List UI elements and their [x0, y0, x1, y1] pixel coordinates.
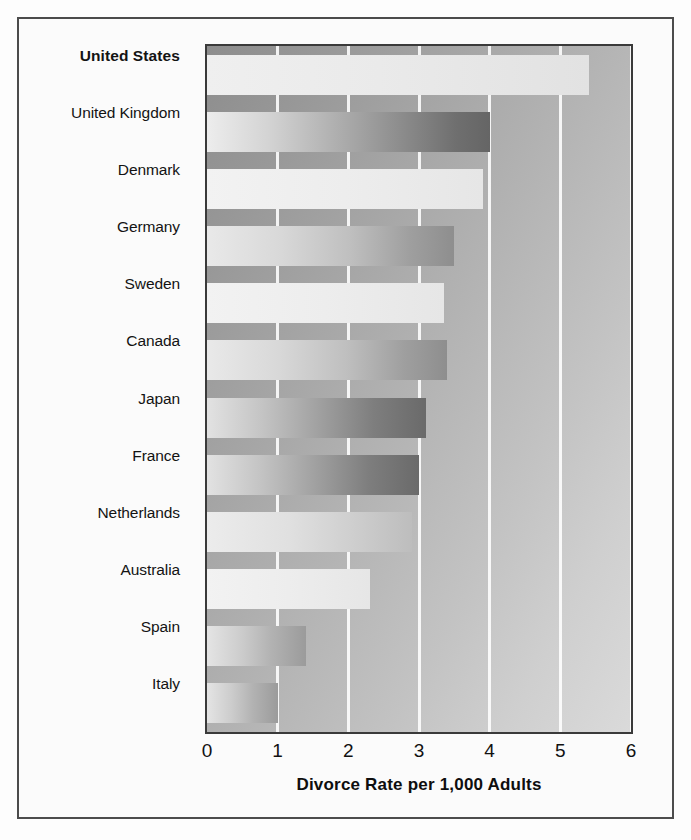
category-label-denmark: Denmark	[0, 161, 180, 179]
category-label-germany: Germany	[0, 218, 180, 236]
bar-netherlands	[207, 512, 412, 552]
x-tick-2: 2	[328, 740, 368, 762]
category-label-netherlands: Netherlands	[0, 504, 180, 522]
x-tick-6: 6	[611, 740, 651, 762]
category-label-column: United StatesUnited KingdomDenmarkGerman…	[0, 27, 188, 737]
x-tick-1: 1	[258, 740, 298, 762]
bar-germany	[207, 226, 454, 266]
x-tick-5: 5	[540, 740, 580, 762]
x-axis-tick-labels: 0123456	[205, 740, 633, 766]
bar-united-states	[207, 55, 589, 95]
category-label-spain: Spain	[0, 618, 180, 636]
category-label-sweden: Sweden	[0, 275, 180, 293]
plot-area	[205, 44, 633, 734]
bar-denmark	[207, 169, 483, 209]
bar-japan	[207, 398, 426, 438]
gridline-5	[559, 46, 562, 732]
bar-canada	[207, 340, 447, 380]
x-tick-4: 4	[470, 740, 510, 762]
bar-france	[207, 455, 419, 495]
category-label-france: France	[0, 447, 180, 465]
x-axis-title: Divorce Rate per 1,000 Adults	[205, 775, 633, 795]
category-label-italy: Italy	[0, 675, 180, 693]
bar-italy	[207, 683, 278, 723]
category-label-united-kingdom: United Kingdom	[0, 104, 180, 122]
x-tick-3: 3	[399, 740, 439, 762]
category-label-australia: Australia	[0, 561, 180, 579]
x-tick-0: 0	[187, 740, 227, 762]
divorce-rate-bar-chart-figure: United StatesUnited KingdomDenmarkGerman…	[0, 0, 691, 840]
category-label-japan: Japan	[0, 390, 180, 408]
category-label-canada: Canada	[0, 332, 180, 350]
category-label-united-states: United States	[0, 47, 180, 65]
bar-united-kingdom	[207, 112, 490, 152]
bar-australia	[207, 569, 370, 609]
bar-spain	[207, 626, 306, 666]
bar-sweden	[207, 283, 444, 323]
gridline-6	[630, 46, 633, 732]
